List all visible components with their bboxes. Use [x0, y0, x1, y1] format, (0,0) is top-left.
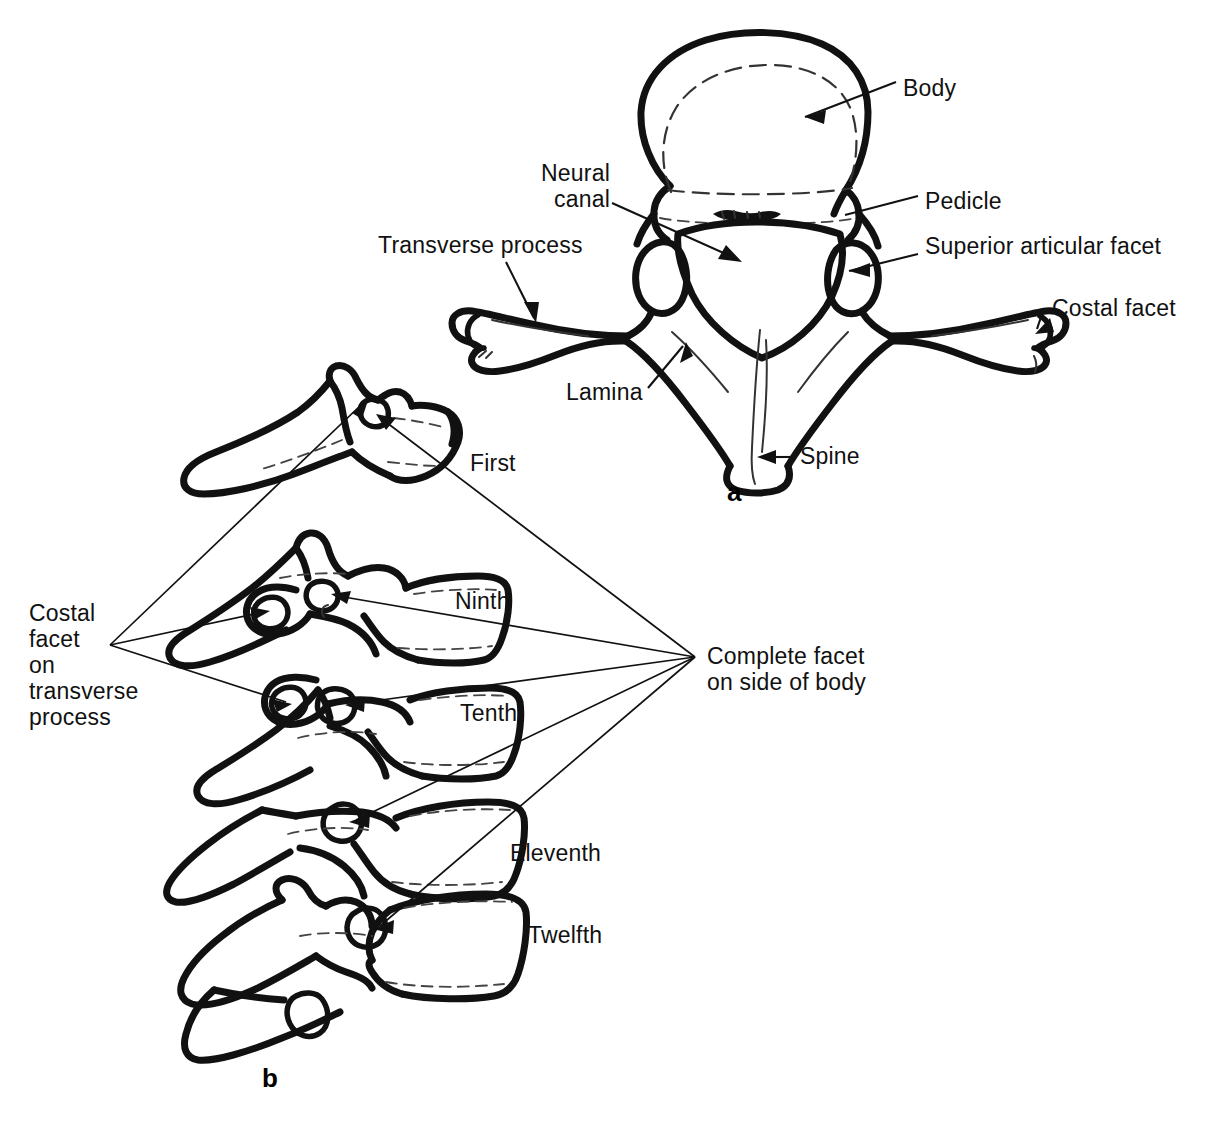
vertebra-twelfth: [181, 878, 527, 1060]
label-superior-articular-facet: Superior articular facet: [925, 233, 1161, 259]
arrowhead-superior-articular-facet: [849, 263, 870, 277]
left-transverse-process-lower: [471, 341, 626, 372]
twelfth-arch-inner-dash: [300, 933, 372, 936]
anatomical-drawing: [0, 0, 1223, 1122]
eleventh-body-inner-dash-2: [392, 882, 502, 885]
twelfth-mamillary-process: [276, 878, 326, 906]
ninth-arch-inner-dash: [280, 573, 348, 578]
vertebral-body-inner-baseline-dashed: [668, 188, 852, 194]
first-spinous-inner-dash: [258, 440, 342, 470]
label-pedicle: Pedicle: [925, 188, 1002, 214]
eleventh-arch: [296, 811, 396, 828]
label-costal-facet-on-transverse-process: Costal facet on transverse process: [29, 600, 219, 730]
left-transverse-tip-fine: [479, 351, 492, 358]
arrowhead-spine: [757, 450, 776, 464]
vertebra-tenth: [197, 677, 521, 804]
panel-a-vertebra: [452, 33, 1066, 493]
arrowhead-lamina: [680, 342, 693, 363]
right-pedicle: [859, 214, 878, 246]
twelfth-inferior-articular-process: [316, 956, 372, 988]
label-spine: Spine: [800, 443, 860, 469]
tenth-body-inner-dash-2: [404, 762, 504, 765]
label-complete-facet-on-side-of-body: Complete facet on side of body: [707, 643, 937, 695]
right-lateral-mass-lower: [862, 312, 890, 336]
twelfth-spinous-process: [181, 900, 316, 1005]
label-vertebra-ninth: Ninth: [455, 588, 510, 614]
label-body: Body: [903, 75, 956, 101]
first-body-inner-dash: [394, 418, 446, 428]
ninth-arch: [348, 567, 406, 588]
panel-letter-a: a: [727, 477, 741, 508]
left-costal-facet-detail: [467, 315, 484, 348]
vertebral-body-inner-dashed: [663, 65, 856, 192]
left-lateral-mass-lower: [628, 311, 652, 336]
left-superior-articular-facet: [636, 242, 687, 314]
tenth-arch: [328, 700, 410, 722]
label-vertebra-twelfth: Twelfth: [528, 922, 602, 948]
leader-b-right-tenth: [352, 657, 695, 704]
twelfth-body-inner-dash-2: [386, 982, 504, 987]
vertebra-first: [184, 366, 460, 494]
ninth-body-inner-dash-2: [398, 646, 492, 649]
twelfth-body-outline: [390, 894, 527, 999]
eleventh-spinous-upper-edge: [262, 810, 296, 816]
label-vertebra-eleventh: Eleventh: [510, 840, 601, 866]
arrowhead-neural-canal: [718, 245, 742, 262]
ninth-body-costal-facet-oval: [306, 581, 338, 610]
eleventh-spinous-process: [167, 810, 290, 902]
label-costal-facet: Costal facet: [1052, 295, 1176, 321]
label-vertebra-tenth: Tenth: [460, 700, 517, 726]
first-body-lower-edge: [352, 452, 390, 476]
right-transverse-process-lower: [892, 341, 1047, 372]
leader-body: [805, 82, 896, 117]
label-vertebra-first: First: [470, 450, 516, 476]
tenth-arch-inner-dash: [298, 732, 376, 738]
vertebra-eleventh: [167, 802, 525, 902]
leader-b-right-first: [382, 419, 695, 657]
panel-letter-b: b: [262, 1063, 278, 1094]
label-neural-canal: Neural canal: [470, 160, 610, 212]
label-transverse-process: Transverse process: [378, 232, 583, 258]
first-body-inner-dash-2: [388, 462, 438, 466]
leader-b-right-eleventh: [356, 657, 695, 820]
panel-a-leaders: [506, 82, 1054, 464]
figure-root: Body Pedicle Superior articular facet Co…: [0, 0, 1223, 1122]
label-lamina: Lamina: [566, 379, 643, 405]
right-lamina-inner-detail: [798, 332, 848, 392]
first-body-right-edge: [448, 412, 454, 444]
vertebral-body-outline: [641, 33, 868, 214]
body-vascular-foramen-detail: [713, 210, 781, 220]
leader-neural-canal: [612, 203, 737, 259]
